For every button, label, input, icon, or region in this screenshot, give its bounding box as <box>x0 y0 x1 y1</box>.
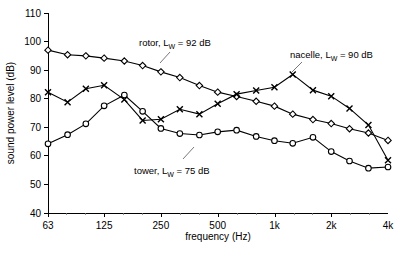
data-point-marker-tower <box>45 141 51 147</box>
data-point-marker-tower <box>347 158 353 164</box>
data-point-marker-tower <box>215 129 221 135</box>
tower-annotation-tail: = 75 dB <box>174 165 210 176</box>
sound-power-level-chart: 631252505001k2k4k 405060708090100110 rot… <box>0 0 405 255</box>
data-point-marker-tower <box>366 165 372 171</box>
y-axis-title: sound power level (dB) <box>5 62 16 164</box>
x-tick-label: 500 <box>209 220 226 231</box>
y-tick-label: 110 <box>25 8 41 19</box>
rotor-annotation: rotor, LW = 92 dB <box>139 37 211 50</box>
y-tick-label: 80 <box>30 93 42 104</box>
data-point-marker-tower <box>101 103 107 109</box>
x-tick-label: 2k <box>326 220 338 231</box>
x-axis-title: frequency (Hz) <box>185 231 251 242</box>
data-point-marker-tower <box>234 127 240 133</box>
data-point-marker-tower <box>83 121 89 127</box>
y-tick-label: 70 <box>30 122 42 133</box>
rotor-annotation-tail: = 92 dB <box>175 37 211 48</box>
y-tick-label: 100 <box>24 36 41 47</box>
data-point-marker-tower <box>122 92 128 98</box>
svg-text:rotor, LW = 92 dB: rotor, LW = 92 dB <box>139 37 211 50</box>
nacelle-annotation-tail: = 90 dB <box>337 49 373 60</box>
rotor-annotation-main: rotor, L <box>139 37 169 48</box>
y-tick-label: 50 <box>30 179 42 190</box>
data-point-marker-tower <box>385 164 391 170</box>
data-point-marker-tower <box>65 132 71 138</box>
data-point-marker-tower <box>272 138 278 144</box>
data-point-marker-tower <box>158 126 164 132</box>
y-tick-label: 60 <box>30 150 42 161</box>
chart-container: 631252505001k2k4k 405060708090100110 rot… <box>0 0 405 255</box>
data-point-marker-tower <box>177 131 183 137</box>
data-point-marker-tower <box>253 134 259 140</box>
y-tick-label: 90 <box>30 65 42 76</box>
tower-annotation-main: tower, L <box>134 165 167 176</box>
x-tick-label: 125 <box>96 220 113 231</box>
data-point-marker-tower <box>197 132 203 138</box>
x-tick-label: 4k <box>383 220 395 231</box>
x-tick-label: 1k <box>269 220 281 231</box>
data-point-marker-tower <box>290 140 296 146</box>
nacelle-annotation-main: nacelle, L <box>290 49 331 60</box>
data-point-marker-tower <box>310 134 316 140</box>
x-tick-label: 63 <box>42 220 54 231</box>
data-point-marker-tower <box>140 108 146 114</box>
x-tick-label: 250 <box>153 220 170 231</box>
data-point-marker-tower <box>328 149 334 155</box>
y-tick-label: 40 <box>30 208 42 219</box>
